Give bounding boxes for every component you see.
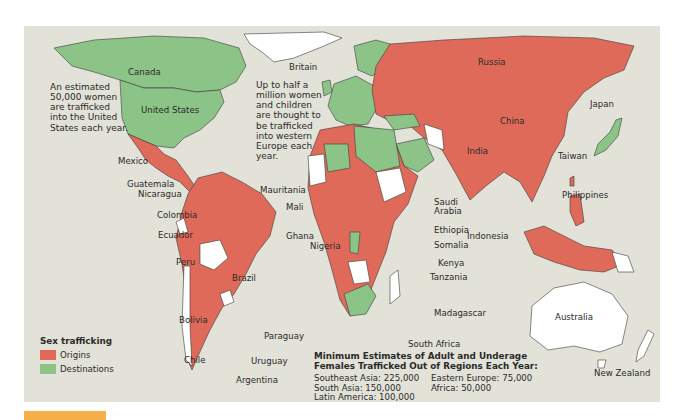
label-bolivia: Bolivia [179,316,208,325]
label-britain: Britain [289,63,317,72]
estimate-africa: Africa: 50,000 [431,384,538,394]
label-ethiopia: Ethiopia [434,226,469,235]
label-madagascar: Madagascar [434,309,486,318]
europe-trafficking-note: Up to half a million women and children … [256,80,328,161]
label-saudi-arabia: Saudi Arabia [434,198,470,217]
label-new-zealand: New Zealand [594,369,650,378]
estimate-empty [431,393,538,402]
label-colombia: Colombia [157,211,197,220]
estimates-title-line1: Minimum Estimates of Adult and Underage [314,351,538,361]
region-japan [594,118,622,156]
region-madagascar [390,270,400,304]
label-nigeria: Nigeria [310,242,341,251]
label-china: China [500,117,525,126]
label-nicaragua: Nicaragua [138,190,182,199]
label-australia: Australia [555,313,593,322]
label-taiwan: Taiwan [558,152,587,161]
label-russia: Russia [478,58,506,67]
label-indonesia: Indonesia [467,232,509,241]
region-western-europe [328,76,378,126]
world-map-panel: An estimated 50,000 women are trafficked… [24,26,660,402]
estimates-title-line2: Females Trafficked Out of Regions Each Y… [314,361,538,371]
region-tasmania [598,360,606,368]
destinations-swatch-icon [40,364,56,374]
label-japan: Japan [590,100,614,109]
label-philippines: Philippines [562,191,608,200]
label-paraguay: Paraguay [264,332,304,341]
map-legend: Sex trafficking Origins Destinations [40,336,114,376]
label-peru: Peru [176,258,195,267]
label-uruguay: Uruguay [251,357,288,366]
trafficking-estimates: Minimum Estimates of Adult and Underage … [314,351,538,402]
legend-label-destinations: Destinations [60,364,114,374]
label-mexico: Mexico [118,157,148,166]
label-kenya: Kenya [438,259,464,268]
estimates-grid: Southeast Asia: 225,000 Eastern Europe: … [314,374,538,402]
label-chile: Chile [184,356,206,365]
legend-title: Sex trafficking [40,336,114,346]
region-taiwan [570,176,574,186]
label-united-states: United States [141,106,199,115]
label-brazil: Brazil [232,274,256,283]
legend-item-origins: Origins [40,348,114,362]
label-tanzania: Tanzania [430,273,467,282]
region-indonesia [524,226,624,272]
region-png [612,252,634,272]
label-india: India [467,147,488,156]
label-somalia: Somalia [434,241,468,250]
region-greenland [244,32,342,62]
us-trafficking-note: An estimated 50,000 women are trafficked… [50,82,130,133]
label-south-africa: South Africa [408,340,460,349]
estimate-latin-america: Latin America: 100,000 [314,393,431,402]
label-argentina: Argentina [236,376,278,385]
figure-label-tab [24,411,106,420]
label-ecuador: Ecuador [158,231,193,240]
legend-item-destinations: Destinations [40,362,114,376]
region-new-zealand [636,330,654,362]
label-mali: Mali [286,203,303,212]
legend-label-origins: Origins [60,350,90,360]
origins-swatch-icon [40,350,56,360]
region-gabon [350,232,360,254]
label-canada: Canada [128,68,161,77]
label-mauritania: Mauritania [260,186,306,195]
